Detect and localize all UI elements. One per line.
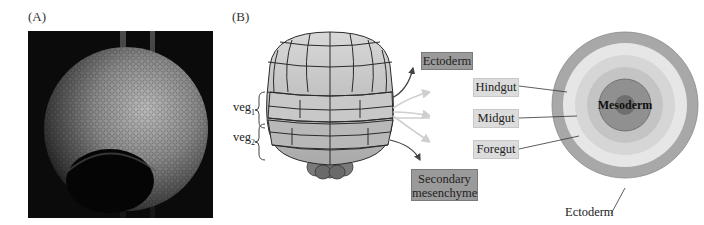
arrow-secondary-mesenchyme (390, 140, 420, 160)
ectoderm-outer-label: Ectoderm (565, 205, 614, 220)
arrow-midgut (393, 112, 430, 116)
hindgut-box: Hindgut (473, 78, 519, 97)
embryo-body (267, 32, 394, 165)
foregut-box: Foregut (473, 140, 519, 159)
arrow-foregut (393, 116, 430, 142)
mesoderm-label: Mesoderm (595, 98, 655, 113)
ectoderm-box: Ectoderm (421, 52, 473, 70)
panel-a-label: (A) (28, 9, 46, 25)
midgut-box: Midgut (473, 109, 519, 128)
arrow-ectoderm (392, 68, 413, 98)
embryo-diagram (230, 0, 430, 225)
veg1-brace (255, 92, 265, 128)
germ-layer-target (515, 20, 704, 220)
veg2-brace (255, 124, 265, 160)
sem-micrograph (28, 31, 213, 218)
secondary-mesenchyme-box: Secondary mesenchyme (411, 169, 478, 201)
